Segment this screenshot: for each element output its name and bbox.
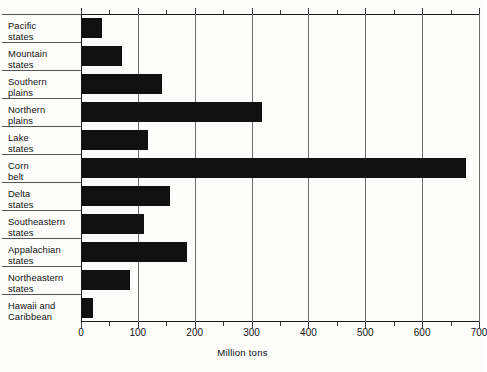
axis-tick [337,322,338,326]
bar [81,242,187,262]
category-label-line: Hawaii and [8,300,78,311]
bar-row [81,210,479,238]
x-tick-label: 600 [414,327,431,338]
axis-tick [394,322,395,326]
row-separator [2,98,81,99]
category-label: Delta states [8,188,78,211]
row-separator [2,126,81,127]
bar-row [81,154,479,182]
category-label-line: Northern [8,104,78,115]
bar [81,74,162,94]
bar-row [81,70,479,98]
category-label: Lake states [8,132,78,155]
category-label: Northern plains [8,104,78,127]
bar-row [81,42,479,70]
row-separator [2,266,81,267]
row-separator [2,42,81,43]
x-tick-label: 200 [186,327,203,338]
row-separator [2,70,81,71]
category-label-line: Caribbean [8,311,78,322]
row-separator [2,294,81,295]
category-label: Southeastern states [8,216,78,239]
x-tick-label: 100 [130,327,147,338]
axis-tick [451,322,452,326]
row-separator [2,14,81,15]
category-label-line: Delta [8,188,78,199]
grid-line [479,14,480,322]
x-tick-label: 300 [243,327,260,338]
bar-row [81,238,479,266]
category-label-line: Mountain [8,48,78,59]
axis-tick [280,322,281,326]
bar-row [81,294,479,322]
plot-area [81,14,479,322]
category-label: Pacific states [8,20,78,43]
bar [81,46,122,66]
category-label: Corn belt [8,160,78,183]
x-axis-title: Million tons [0,347,485,358]
category-label-line: Appalachian [8,244,78,255]
x-tick-label: 400 [300,327,317,338]
axis-tick [166,322,167,326]
x-tick-label: 700 [471,327,487,338]
x-tick-label: 0 [78,327,84,338]
x-tick-label: 500 [357,327,374,338]
row-separator [2,154,81,155]
category-label-line: Southeastern [8,216,78,227]
category-label: Hawaii and Caribbean [8,300,78,323]
row-separator [2,182,81,183]
category-label-line: Northeastern [8,272,78,283]
category-label: Southern plains [8,76,78,99]
bar [81,298,93,318]
bar [81,18,102,38]
category-label: Mountain states [8,48,78,71]
bar [81,130,148,150]
axis-tick [223,322,224,326]
axis-tick [109,322,110,326]
category-label-line: Lake [8,132,78,143]
category-label-line: Pacific [8,20,78,31]
bar [81,214,144,234]
bar [81,158,466,178]
bar-row [81,98,479,126]
axis-tick [479,8,480,14]
bar [81,270,130,290]
category-label: Northeastern states [8,272,78,295]
bar [81,186,170,206]
category-label-line: Corn [8,160,78,171]
bar [81,102,262,122]
bar-row [81,14,479,42]
row-separator [2,210,81,211]
category-label: Appalachian states [8,244,78,267]
category-label-line: Southern [8,76,78,87]
row-separator [2,238,81,239]
bar-row [81,266,479,294]
bar-row [81,126,479,154]
bar-row [81,182,479,210]
